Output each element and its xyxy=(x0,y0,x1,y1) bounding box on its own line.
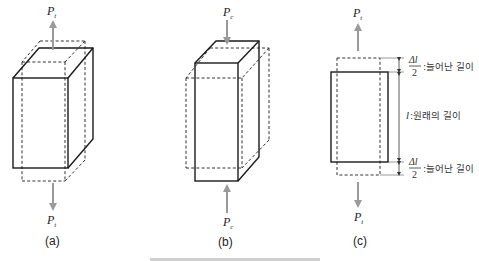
annotation-top-delta: Δl 2 :늘어난 길이 xyxy=(408,54,474,78)
svg-text:2: 2 xyxy=(412,169,417,180)
original-shape-a xyxy=(13,48,93,168)
force-arrow-down-icon xyxy=(354,182,362,208)
deformed-shape-c xyxy=(337,58,380,175)
panel-b: Pc Pc (b) xyxy=(186,5,269,249)
force-label-bottom-a: Pt xyxy=(46,213,57,229)
force-arrow-up-icon xyxy=(354,23,362,51)
svg-text::늘어난 길이: :늘어난 길이 xyxy=(423,163,474,174)
force-label-top-c: Pt xyxy=(352,6,363,22)
force-arrow-down-icon xyxy=(49,183,57,211)
svg-text:l: l xyxy=(406,109,409,121)
panel-c: Δl 2 :늘어난 길이 l :원래의 길이 Δl 2 :늘어난 길이 Pt xyxy=(331,6,474,248)
panel-label-b: (b) xyxy=(218,235,233,249)
svg-text:Δl: Δl xyxy=(408,54,418,65)
panel-label-c: (c) xyxy=(353,234,367,248)
svg-text:2: 2 xyxy=(412,67,417,78)
force-arrow-up-icon xyxy=(49,20,57,50)
force-label-top-b: Pc xyxy=(222,5,234,21)
svg-text:Δl: Δl xyxy=(408,156,418,167)
force-label-bottom-b: Pc xyxy=(222,215,234,231)
deformed-shape-b xyxy=(186,48,269,168)
force-label-top-a: Pt xyxy=(46,4,57,20)
svg-text::원래의 길이: :원래의 길이 xyxy=(410,110,461,121)
svg-text::늘어난 길이: :늘어난 길이 xyxy=(423,61,474,72)
force-arrow-up-icon xyxy=(223,184,231,213)
original-shape-c xyxy=(331,72,388,162)
stress-deformation-diagram: Pt Pt (a) xyxy=(0,0,479,261)
annotation-bottom-delta: Δl 2 :늘어난 길이 xyxy=(408,156,474,180)
panel-a: Pt Pt (a) xyxy=(13,4,93,248)
annotation-original-length: l :원래의 길이 xyxy=(406,109,461,121)
force-label-bottom-c: Pt xyxy=(353,210,364,226)
panel-label-a: (a) xyxy=(45,234,60,248)
